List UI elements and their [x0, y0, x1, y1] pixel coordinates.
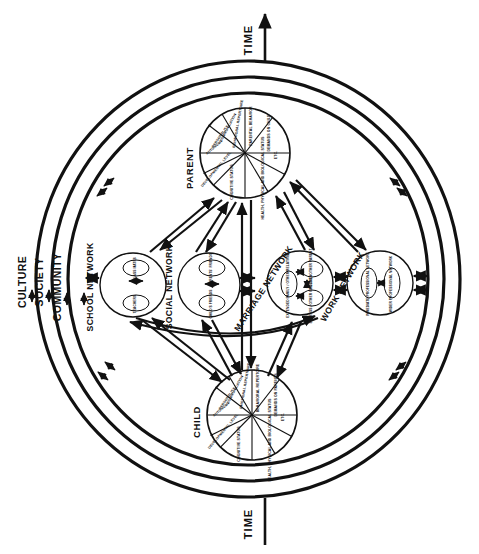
- marriage-member-0-label: EXTENDED FAMILY / OTHER RELATIVES: [286, 252, 290, 317]
- child-seg-3: HEALTH, PHYSICAL AND BIOLOGICAL STATUS: [268, 398, 272, 482]
- ring-labels: CULTURE SOCIETY COMMUNITY: [16, 253, 84, 321]
- parent-child-axis: [242, 200, 251, 370]
- parent-seg-4: COGNITIVE STATUS: [230, 164, 234, 200]
- social-member-1-label: CHILD'S FRIENDS: [209, 290, 213, 319]
- social-network-label: SOCIAL NETWORK: [164, 244, 174, 329]
- ecological-model-diagram: TIME TIME CULTURE SOCIETY COMMUN: [0, 0, 479, 554]
- network-marriage[interactable]: MARRIAGE NETWORK EXTENDED FAMILY / OTHER…: [232, 243, 333, 333]
- parent-seg-3: HEALTH, PHYSICAL AND BIOLOGICAL STATUS: [261, 136, 265, 220]
- ring-label-society: SOCIETY: [33, 258, 45, 307]
- child-seg-2: ETC.: [281, 413, 285, 421]
- social-member-0-label: PARENTS' FRIENDS: [209, 253, 213, 285]
- parent-hub-label: PARENT: [184, 147, 195, 189]
- ring-label-community: COMMUNITY: [51, 253, 63, 321]
- hub-parent[interactable]: PARENT PARENTAL BEHAVIOR DEMANDS ON CHIL…: [184, 99, 290, 220]
- child-hub-label: CHILD: [191, 406, 202, 438]
- child-seg-4: COGNITIVE STATUS: [237, 426, 241, 462]
- network-social[interactable]: SOCIAL NETWORK PARENTS' FRIENDS CHILD'S …: [164, 244, 240, 329]
- child-seg-1: DEMANDS ON PARENTS: [274, 373, 278, 417]
- parent-seg-0: PARENTAL BEHAVIOR: [249, 106, 253, 146]
- child-seg-0: BEHAVIORAL REPERTOIRE: [256, 363, 260, 412]
- diagram-canvas: TIME TIME CULTURE SOCIETY COMMUN: [0, 0, 479, 554]
- time-label-top: TIME: [242, 25, 254, 55]
- time-axis-bottom: TIME: [242, 498, 265, 545]
- parent-seg-2: ETC.: [274, 151, 278, 159]
- school-network-label: SCHOOL NETWORK: [85, 242, 95, 331]
- parent-seg-1: DEMANDS ON CHILD: [267, 114, 271, 152]
- time-axis-top: TIME: [242, 14, 265, 62]
- time-label-bottom: TIME: [242, 509, 254, 539]
- work-member-0-label: IMMEDIATE PROFESSIONAL NETWORK: [366, 251, 370, 316]
- school-member-1-label: TEACHERS: [133, 295, 137, 313]
- school-member-0-label: CLASS MATES: [133, 257, 137, 281]
- ring-label-culture: CULTURE: [16, 256, 28, 308]
- work-member-1-label: WIDER PROFESSIONAL NETWORK: [389, 255, 393, 312]
